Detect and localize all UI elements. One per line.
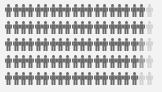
person-icon	[138, 4, 145, 17]
person-icon	[101, 21, 108, 34]
person-icon	[86, 72, 93, 85]
person-icon	[79, 38, 86, 51]
person-icon	[27, 55, 34, 68]
person-icon	[5, 21, 12, 34]
person-icon	[138, 55, 145, 68]
person-icon	[20, 21, 27, 34]
person-icon	[72, 21, 79, 34]
person-icon	[108, 38, 115, 51]
person-icon	[94, 72, 101, 85]
person-icon	[116, 21, 123, 34]
person-icon	[123, 38, 130, 51]
person-icon	[12, 21, 19, 34]
person-icon	[72, 38, 79, 51]
person-icon	[5, 4, 12, 17]
person-icon	[123, 72, 130, 85]
person-icon	[131, 72, 138, 85]
person-icon	[12, 55, 19, 68]
person-icon	[5, 55, 12, 68]
person-icon	[20, 72, 27, 85]
person-icon	[64, 21, 71, 34]
person-icon	[79, 4, 86, 17]
person-icon	[138, 38, 145, 51]
person-icon	[64, 4, 71, 17]
person-icon	[101, 4, 108, 17]
person-icon	[94, 38, 101, 51]
person-icon	[131, 21, 138, 34]
person-icon	[64, 72, 71, 85]
person-icon	[42, 4, 49, 17]
person-icon	[79, 72, 86, 85]
person-icon	[57, 38, 64, 51]
person-icon	[42, 21, 49, 34]
person-icon	[145, 4, 152, 17]
person-icon	[116, 4, 123, 17]
person-icon	[72, 4, 79, 17]
person-icon	[27, 38, 34, 51]
person-icon	[79, 21, 86, 34]
person-icon	[64, 38, 71, 51]
person-icon	[108, 4, 115, 17]
person-icon	[57, 55, 64, 68]
person-icon	[131, 38, 138, 51]
person-icon	[108, 21, 115, 34]
person-icon	[12, 4, 19, 17]
person-icon	[49, 72, 56, 85]
person-icon	[116, 38, 123, 51]
person-icon	[86, 55, 93, 68]
person-icon	[27, 72, 34, 85]
person-icon	[123, 4, 130, 17]
person-icon	[49, 55, 56, 68]
person-icon	[145, 21, 152, 34]
person-icon	[101, 38, 108, 51]
person-icon	[42, 55, 49, 68]
person-icon	[116, 55, 123, 68]
person-icon	[123, 55, 130, 68]
person-icon	[5, 38, 12, 51]
person-icon	[94, 55, 101, 68]
person-icon	[49, 38, 56, 51]
person-icon	[64, 55, 71, 68]
person-icon	[131, 4, 138, 17]
person-icon	[138, 72, 145, 85]
person-icon	[101, 55, 108, 68]
person-icon	[35, 55, 42, 68]
person-icon	[94, 21, 101, 34]
person-icon	[35, 72, 42, 85]
person-icon	[20, 38, 27, 51]
person-icon	[5, 72, 12, 85]
person-icon	[145, 55, 152, 68]
person-icon	[94, 4, 101, 17]
person-icon	[86, 21, 93, 34]
person-icon	[35, 38, 42, 51]
person-icon	[57, 72, 64, 85]
person-icon	[57, 21, 64, 34]
person-icon	[27, 21, 34, 34]
person-icon	[145, 38, 152, 51]
person-icon	[131, 55, 138, 68]
person-icon	[42, 38, 49, 51]
person-icon	[35, 4, 42, 17]
person-icon	[108, 55, 115, 68]
person-icon	[138, 21, 145, 34]
icon-grid	[5, 4, 153, 89]
person-icon	[116, 72, 123, 85]
person-icon	[86, 38, 93, 51]
pictogram-chart	[0, 0, 162, 92]
person-icon	[123, 21, 130, 34]
person-icon	[27, 4, 34, 17]
person-icon	[42, 72, 49, 85]
person-icon	[79, 55, 86, 68]
person-icon	[49, 4, 56, 17]
person-icon	[35, 21, 42, 34]
person-icon	[12, 72, 19, 85]
person-icon	[49, 21, 56, 34]
person-icon	[86, 4, 93, 17]
person-icon	[57, 4, 64, 17]
person-icon	[20, 55, 27, 68]
person-icon	[101, 72, 108, 85]
person-icon	[72, 55, 79, 68]
person-icon	[12, 38, 19, 51]
person-icon	[72, 72, 79, 85]
person-icon	[20, 4, 27, 17]
